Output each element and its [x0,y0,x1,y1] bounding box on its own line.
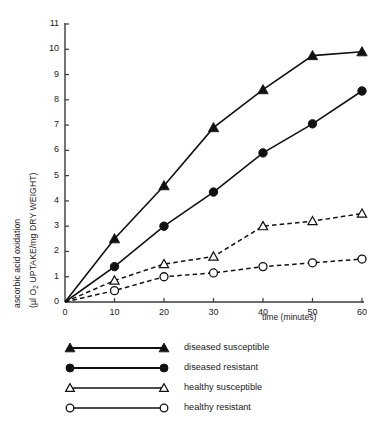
data-point-filled-triangle [357,47,367,56]
data-point-filled-circle [160,222,168,230]
series-line [65,52,362,302]
data-point-open-circle [66,404,74,412]
data-point-filled-circle [160,364,168,372]
legend-label: diseased resistant [184,362,258,372]
legend-item[interactable]: healthy resistant [62,398,382,418]
data-point-open-circle [358,255,366,263]
legend-item[interactable]: healthy susceptible [62,378,382,398]
legend-marker-sample [62,398,172,418]
legend-item[interactable]: diseased resistant [62,358,382,378]
data-point-filled-triangle [208,122,218,131]
legend-sample-svg [62,398,172,418]
plot-area [0,0,386,330]
data-point-filled-circle [110,262,118,270]
legend-marker-sample [62,338,172,358]
data-point-open-triangle [308,217,317,225]
data-point-open-circle [111,287,119,295]
series-healthy-resistant [65,255,366,302]
series-healthy-susceptible [65,209,367,302]
legend-sample-svg [62,358,172,378]
series-line [65,259,362,302]
data-point-open-circle [259,263,267,271]
data-point-filled-circle [66,364,74,372]
series-diseased-susceptible [65,47,367,302]
legend-label: diseased susceptible [184,342,269,352]
legend-marker-sample [62,358,172,378]
data-point-filled-triangle [258,85,268,94]
data-point-filled-circle [259,149,267,157]
legend-marker-sample [62,378,172,398]
legend-label: healthy resistant [184,402,251,412]
data-point-open-triangle [357,209,366,217]
legend-label: healthy susceptible [184,382,262,392]
data-point-filled-circle [308,120,316,128]
x-axis-title: time (minutes) [262,312,316,322]
ascorbic-acid-oxidation-chart: ascorbic acid oxidation (µl O2 UPTAKE/mg… [0,0,386,423]
data-point-open-circle [160,404,168,412]
data-point-open-circle [309,259,317,267]
data-point-open-triangle [209,252,218,260]
data-point-filled-circle [209,188,217,196]
chart-legend: diseased susceptiblediseased resistanthe… [62,338,382,418]
data-point-open-circle [210,269,218,277]
legend-item[interactable]: diseased susceptible [62,338,382,358]
legend-sample-svg [62,338,172,358]
data-point-filled-circle [358,87,366,95]
legend-sample-svg [62,378,172,398]
data-point-open-circle [160,273,168,281]
